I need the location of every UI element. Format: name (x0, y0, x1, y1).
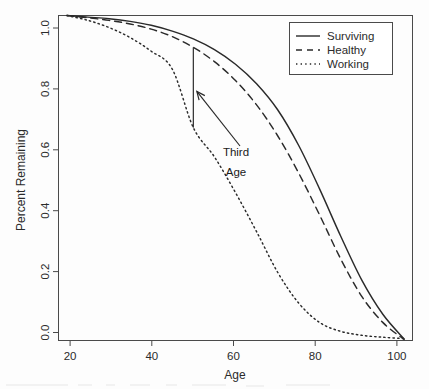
x-tick-label-3: 80 (309, 350, 322, 362)
chart-figure: 0.0 0.2 0.4 0.6 0.8 1.0 Percent Remainin… (0, 0, 429, 389)
x-axis-title: Age (224, 368, 246, 382)
chart-legend: Surviving Healthy Working (290, 23, 393, 75)
x-tick-label-2: 60 (227, 350, 240, 362)
y-tick-label-1: 0.2 (39, 264, 51, 280)
legend-label-healthy: Healthy (327, 44, 366, 56)
y-tick-label-4: 0.8 (39, 81, 51, 97)
y-tick-label-3: 0.6 (39, 142, 51, 158)
y-tick-label-0: 0.0 (39, 325, 51, 341)
x-tick-label-0: 20 (64, 350, 77, 362)
third-age-label-line2: Age (226, 166, 246, 178)
survival-curves-chart: 0.0 0.2 0.4 0.6 0.8 1.0 Percent Remainin… (0, 0, 429, 389)
y-tick-label-2: 0.4 (39, 202, 51, 219)
y-axis-title: Percent Remaining (14, 129, 28, 231)
x-tick-label-1: 40 (145, 350, 158, 362)
x-tick-label-4: 100 (387, 350, 406, 362)
legend-label-working: Working (327, 58, 369, 70)
third-age-label-line1: Third (223, 146, 249, 158)
legend-label-surviving: Surviving (327, 30, 374, 42)
y-tick-label-5: 1.0 (39, 20, 51, 36)
